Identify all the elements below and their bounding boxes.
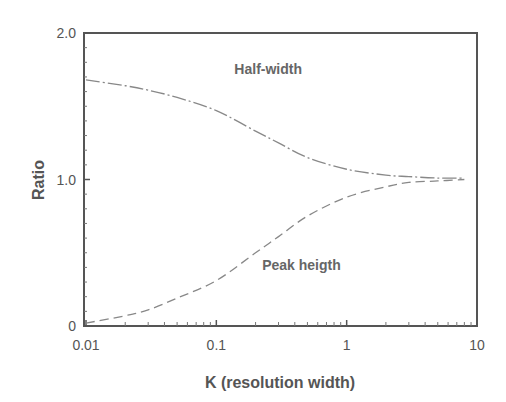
series-group: [86, 80, 464, 323]
series-line-peak-heigth: [86, 180, 464, 324]
y-tick-label: 0: [68, 318, 76, 334]
x-axis: 0.010.1110: [72, 320, 485, 353]
series-line-half-width: [86, 80, 464, 178]
y-tick-label: 2.0: [57, 25, 77, 41]
annotation-peak-heigth: Peak heigth: [262, 257, 341, 273]
x-tick-label: 1: [343, 337, 351, 353]
x-axis-title: K (resolution width): [205, 374, 355, 391]
annotations: Half-widthPeak heigth: [234, 61, 340, 273]
x-tick-label: 0.1: [207, 337, 227, 353]
x-tick-label: 10: [469, 337, 485, 353]
annotation-half-width: Half-width: [234, 61, 302, 77]
y-tick-label: 1.0: [57, 172, 77, 188]
chart: 01.02.0 0.010.1110 Half-widthPeak heigth…: [0, 0, 506, 402]
x-tick-label: 0.01: [72, 337, 99, 353]
y-axis-title: Ratio: [30, 160, 47, 200]
